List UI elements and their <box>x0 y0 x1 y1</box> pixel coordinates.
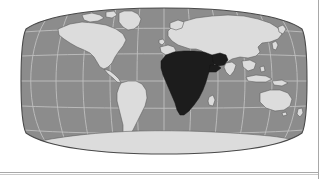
map-body <box>20 5 308 157</box>
bottom-rule-secondary <box>0 174 318 175</box>
right-rule <box>318 0 319 179</box>
page-canvas <box>0 0 326 179</box>
world-map-figure <box>20 5 308 157</box>
philippines-shape <box>260 66 265 72</box>
bottom-rule <box>0 172 318 173</box>
world-map-svg <box>20 5 308 157</box>
tasmania-shape <box>282 112 287 116</box>
